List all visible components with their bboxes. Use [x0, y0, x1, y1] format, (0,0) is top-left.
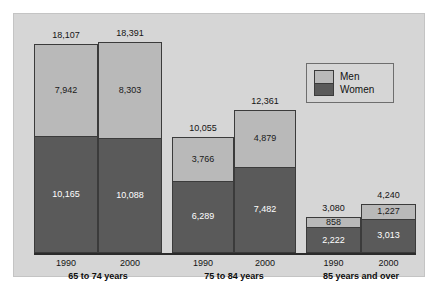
- group-label-75-to-84: 75 to 84 years: [172, 272, 296, 281]
- legend: Men Women: [306, 63, 394, 103]
- bar-total-g3-2000: 4,240: [361, 191, 416, 200]
- bar-total-g3-1990: 3,080: [306, 204, 361, 213]
- legend-swatch-icon: [314, 70, 334, 96]
- plot-panel: 18,107 7,942 10,165 18,391 8,303 10,088: [13, 13, 425, 277]
- x-axis-line: [34, 253, 416, 255]
- segment-value-men: 858: [326, 218, 341, 227]
- bar-total-g2-2000: 12,361: [234, 97, 296, 106]
- bar-segment-women: 6,289: [173, 181, 233, 252]
- bar-segment-men: 1,227: [362, 205, 415, 219]
- tick-label-g3-2000: 2000: [361, 259, 416, 268]
- segment-value-women: 2,222: [322, 236, 345, 245]
- segment-value-men: 7,942: [55, 86, 78, 95]
- bar-segment-women: 10,165: [35, 136, 97, 252]
- legend-swatch-men: [315, 71, 333, 83]
- legend-label-women: Women: [340, 83, 374, 96]
- segment-value-women: 3,013: [377, 231, 400, 240]
- bar-segment-women: 3,013: [362, 219, 415, 252]
- stacked-bar-chart: 18,107 7,942 10,165 18,391 8,303 10,088: [0, 0, 436, 295]
- segment-value-women: 10,088: [116, 191, 144, 200]
- segment-value-men: 4,879: [254, 134, 277, 143]
- bar-segment-men: 4,879: [235, 111, 295, 167]
- bar-g3-2000: 1,227 3,013: [361, 204, 416, 253]
- bar-segment-women: 10,088: [99, 138, 161, 252]
- bar-segment-men: 7,942: [35, 45, 97, 136]
- bar-total-g1-1990: 18,107: [34, 31, 98, 40]
- legend-swatch-women: [315, 83, 333, 95]
- bar-segment-men: 3,766: [173, 138, 233, 181]
- segment-value-women: 10,165: [52, 190, 80, 199]
- tick-label-g1-2000: 2000: [98, 259, 162, 268]
- segment-value-men: 1,227: [377, 207, 400, 216]
- tick-label-g2-1990: 1990: [172, 259, 234, 268]
- legend-labels: Men Women: [340, 70, 374, 96]
- segment-value-men: 8,303: [119, 86, 142, 95]
- bar-segment-men: 8,303: [99, 43, 161, 138]
- bar-segment-women: 7,482: [235, 167, 295, 252]
- group-label-65-to-74: 65 to 74 years: [34, 272, 162, 281]
- group-label-85-and-over: 85 years and over: [306, 272, 416, 281]
- bar-g1-2000: 8,303 10,088: [98, 42, 162, 253]
- bar-g3-1990: 858 2,222: [306, 217, 361, 253]
- plot-area: 18,107 7,942 10,165 18,391 8,303 10,088: [14, 14, 424, 276]
- tick-label-g1-1990: 1990: [34, 259, 98, 268]
- bar-total-g2-1990: 10,055: [172, 124, 234, 133]
- bar-total-g1-2000: 18,391: [98, 29, 162, 38]
- tick-label-g2-2000: 2000: [234, 259, 296, 268]
- legend-label-men: Men: [340, 70, 374, 83]
- bar-g2-1990: 3,766 6,289: [172, 137, 234, 253]
- segment-value-men: 3,766: [192, 155, 215, 164]
- segment-value-women: 6,289: [192, 212, 215, 221]
- bar-segment-women: 2,222: [307, 227, 360, 252]
- segment-value-women: 7,482: [254, 205, 277, 214]
- bar-g2-2000: 4,879 7,482: [234, 110, 296, 253]
- bar-segment-men: 858: [307, 218, 360, 227]
- tick-label-g3-1990: 1990: [306, 259, 361, 268]
- bar-g1-1990: 7,942 10,165: [34, 44, 98, 253]
